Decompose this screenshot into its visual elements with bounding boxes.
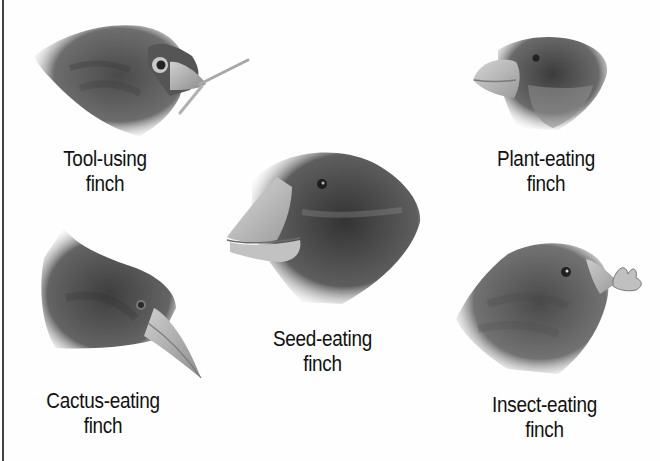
cactus-eating-finch-label: Cactus-eating finch — [39, 388, 168, 438]
label-line-2: finch — [39, 413, 168, 438]
insect-eating-finch-illustration — [448, 234, 648, 384]
figure-canvas: Tool-using finch Plant-eat — [0, 0, 660, 461]
cactus-eating-finch-illustration — [36, 228, 206, 388]
seed-eating-finch-illustration — [222, 142, 427, 312]
plant-eating-finch-icon — [468, 30, 613, 135]
label-line-1: Cactus-eating — [39, 388, 168, 413]
plant-eating-finch-label: Plant-eating finch — [486, 146, 606, 196]
label-line-2: finch — [486, 171, 606, 196]
plant-eating-finch-illustration — [468, 30, 613, 135]
label-line-2: finch — [264, 351, 380, 376]
insect-eating-finch-label: Insect-eating finch — [482, 392, 607, 442]
seed-eating-finch-icon — [222, 142, 427, 312]
tool-using-finch-label: Tool-using finch — [49, 146, 161, 196]
label-line-1: Insect-eating — [482, 392, 607, 417]
label-line-2: finch — [49, 171, 161, 196]
insect-icon — [613, 268, 641, 291]
label-line-2: finch — [482, 417, 607, 442]
left-border-line — [2, 0, 4, 461]
label-line-1: Seed-eating — [264, 326, 380, 351]
label-line-1: Plant-eating — [486, 146, 606, 171]
seed-eating-finch-label: Seed-eating finch — [264, 326, 380, 376]
tool-using-finch-icon — [30, 18, 255, 138]
cactus-eating-finch-icon — [36, 228, 206, 388]
insect-eating-finch-icon — [448, 234, 648, 384]
label-line-1: Tool-using — [49, 146, 161, 171]
tool-using-finch-illustration — [30, 18, 255, 138]
